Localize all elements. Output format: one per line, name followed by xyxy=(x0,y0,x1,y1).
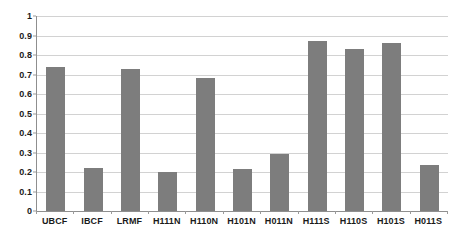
y-axis: 10.90.80.70.60.50.40.30.20.10 xyxy=(0,0,36,250)
x-tick-slot: UBCF xyxy=(36,216,73,236)
y-tick-label: 0.7 xyxy=(19,70,32,80)
bar-slot xyxy=(224,16,261,211)
x-tick-label: H101S xyxy=(377,216,405,226)
x-tick-mark xyxy=(223,211,224,214)
bar-chart: 10.90.80.70.60.50.40.30.20.10 UBCFIBCFLR… xyxy=(0,0,451,250)
y-tick-label: 0.8 xyxy=(19,50,32,60)
y-tick-label: 1 xyxy=(27,11,32,21)
x-tick-slot: H110N xyxy=(185,216,222,236)
x-tick-label: UBCF xyxy=(42,216,67,226)
x-tick-slot: H111N xyxy=(148,216,185,236)
bar-slot xyxy=(37,16,74,211)
x-tick-label: H110S xyxy=(340,216,368,226)
bar-h111n[interactable] xyxy=(158,172,177,211)
x-tick-label: LRMF xyxy=(117,216,142,226)
bar-slot xyxy=(186,16,223,211)
x-tick-label: H111S xyxy=(303,216,330,226)
x-tick-mark xyxy=(111,211,112,214)
x-tick-mark xyxy=(335,211,336,214)
bars-layer xyxy=(37,16,448,211)
bar-h111s[interactable] xyxy=(308,41,327,211)
y-tick-label: 0.4 xyxy=(19,128,32,138)
bar-ibcf[interactable] xyxy=(84,168,103,211)
x-tick-mark xyxy=(260,211,261,214)
x-tick-mark xyxy=(36,211,37,214)
y-tick-label: 0.1 xyxy=(19,187,32,197)
y-tick-label: 0.5 xyxy=(19,109,32,119)
x-tick-slot: H101N xyxy=(223,216,260,236)
bar-h101n[interactable] xyxy=(233,169,252,211)
bar-slot xyxy=(112,16,149,211)
bar-slot xyxy=(411,16,448,211)
bar-h110n[interactable] xyxy=(196,78,215,211)
x-tick-slot: IBCF xyxy=(73,216,110,236)
bar-ubcf[interactable] xyxy=(46,67,65,211)
x-tick-mark xyxy=(185,211,186,214)
bar-slot xyxy=(373,16,410,211)
plot-area xyxy=(36,16,448,212)
x-tick-mark xyxy=(148,211,149,214)
bar-slot xyxy=(299,16,336,211)
x-tick-mark xyxy=(372,211,373,214)
x-tick-slot: LRMF xyxy=(111,216,148,236)
bar-slot xyxy=(336,16,373,211)
x-tick-mark xyxy=(298,211,299,214)
y-tick-label: 0 xyxy=(27,206,32,216)
y-tick-label: 0.2 xyxy=(19,167,32,177)
x-tick-label: IBCF xyxy=(81,216,102,226)
y-tick-label: 0.6 xyxy=(19,89,32,99)
x-tick-slot: H110S xyxy=(335,216,372,236)
x-tick-label: H111N xyxy=(153,216,181,226)
bar-lrmf[interactable] xyxy=(121,69,140,211)
y-tick-label: 0.9 xyxy=(19,31,32,41)
bar-h011s[interactable] xyxy=(420,165,439,211)
x-tick-label: H110N xyxy=(190,216,218,226)
bar-slot xyxy=(261,16,298,211)
x-tick-mark xyxy=(447,211,448,214)
x-tick-slot: H011N xyxy=(260,216,297,236)
x-tick-slot: H111S xyxy=(298,216,335,236)
x-tick-slot: H011S xyxy=(410,216,447,236)
y-tick-label: 0.3 xyxy=(19,148,32,158)
x-tick-label: H011N xyxy=(265,216,293,226)
bar-h011n[interactable] xyxy=(270,154,289,211)
bar-h110s[interactable] xyxy=(345,49,364,211)
x-tick-label: H101N xyxy=(227,216,256,226)
x-tick-label: H011S xyxy=(415,216,443,226)
x-tick-mark xyxy=(73,211,74,214)
x-tick-slot: H101S xyxy=(372,216,409,236)
bar-slot xyxy=(149,16,186,211)
x-tick-mark xyxy=(410,211,411,214)
bar-h101s[interactable] xyxy=(382,43,401,211)
bar-slot xyxy=(74,16,111,211)
x-axis: UBCFIBCFLRMFH111NH110NH101NH011NH111SH11… xyxy=(36,216,447,236)
